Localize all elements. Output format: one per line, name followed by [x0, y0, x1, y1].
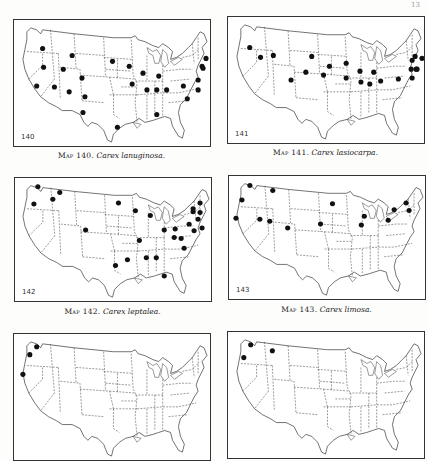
page-number: 13 [411, 1, 420, 9]
map-caption-143: Map 143. Carex limosa. [228, 305, 425, 314]
locality-dot [181, 83, 186, 88]
locality-dot [200, 66, 205, 71]
map-panel-142: 142 [14, 177, 212, 302]
locality-dot [247, 183, 252, 188]
locality-dot [362, 214, 367, 219]
us-map-143 [229, 176, 425, 299]
locality-dot [409, 67, 414, 72]
locality-dot [144, 87, 149, 92]
locality-dot [41, 65, 46, 70]
locality-dot [410, 75, 415, 80]
map-number-label: 142 [22, 288, 35, 296]
map-number-label: 143 [236, 286, 249, 294]
locality-dot [115, 125, 120, 130]
map-panel-143: 143 [228, 175, 426, 300]
locality-dot [241, 355, 246, 360]
locality-dot [419, 56, 424, 61]
locality-dot [359, 223, 364, 228]
locality-dot [330, 201, 335, 206]
locality-dot [367, 81, 372, 86]
locality-dot [191, 209, 196, 214]
locality-dot [61, 67, 66, 72]
locality-dot [271, 53, 276, 58]
caption-species: Carex limosa. [320, 305, 372, 314]
locality-dot [144, 255, 149, 260]
locality-dot [185, 96, 190, 101]
locality-dot [191, 228, 196, 233]
locality-dot [413, 54, 418, 59]
caption-prefix: Map 140. [58, 151, 94, 160]
locality-dot [162, 274, 167, 279]
locality-dot [67, 89, 72, 94]
locality-dot [52, 84, 57, 89]
locality-dot [154, 112, 159, 117]
locality-dot [270, 188, 275, 193]
locality-dot [309, 54, 314, 59]
locality-dot [127, 64, 132, 69]
us-map-141 [228, 17, 424, 143]
map-caption-141: Map 141. Carex lasiocarpa. [227, 148, 424, 157]
map-panel-141: 141 [227, 16, 425, 144]
locality-dot [392, 207, 397, 212]
locality-dot [288, 77, 293, 82]
map-caption-140: Map 140. Carex lanuginosa. [13, 151, 210, 160]
locality-dot [197, 210, 202, 215]
locality-dot [285, 225, 290, 230]
locality-dot [50, 197, 55, 202]
locality-dot [321, 73, 326, 78]
caption-species: Carex lanuginosa. [96, 151, 165, 160]
locality-dot [358, 79, 363, 84]
locality-dot [164, 87, 169, 92]
locality-dot [371, 70, 376, 75]
locality-dot [182, 246, 187, 251]
locality-dot [154, 87, 159, 92]
locality-dot [40, 46, 45, 51]
locality-dot [82, 94, 87, 99]
locality-dot [125, 257, 130, 262]
locality-dot [172, 235, 177, 240]
us-map-140 [14, 20, 210, 146]
locality-dot [404, 200, 409, 205]
locality-dot [110, 59, 115, 64]
locality-dot [173, 226, 178, 231]
locality-dot [35, 184, 40, 189]
locality-dot [197, 200, 202, 205]
locality-dot [414, 67, 419, 72]
locality-dot [154, 255, 159, 260]
locality-dot [83, 227, 88, 232]
locality-dot [248, 342, 253, 347]
locality-dot [34, 83, 39, 88]
locality-dot [187, 222, 192, 227]
locality-dot [34, 344, 39, 349]
locality-dot [257, 217, 262, 222]
locality-dot [156, 74, 161, 79]
us-map-144 [14, 334, 210, 460]
us-map-145 [228, 332, 424, 458]
caption-prefix: Map 141. [273, 148, 309, 157]
caption-species: Carex leptalea. [103, 307, 161, 316]
locality-dot [195, 217, 200, 222]
locality-dot [203, 56, 208, 61]
locality-dot [116, 200, 121, 205]
locality-dot [179, 236, 184, 241]
locality-dot [239, 198, 244, 203]
map-panel-144 [13, 333, 211, 461]
locality-dot [357, 69, 362, 74]
locality-dot [344, 75, 349, 80]
locality-dot [196, 77, 201, 82]
locality-dot [327, 64, 332, 69]
locality-dot [27, 352, 32, 357]
locality-dot [70, 53, 75, 58]
locality-dot [113, 263, 118, 268]
map-caption-142: Map 142. Carex leptalea. [14, 307, 211, 316]
locality-dot [318, 222, 323, 227]
locality-dot [396, 76, 401, 81]
locality-dot [378, 78, 383, 83]
locality-dot [267, 219, 272, 224]
locality-dot [233, 216, 238, 221]
us-map-142 [15, 178, 211, 301]
locality-dot [137, 238, 142, 243]
locality-dot [406, 208, 411, 213]
caption-prefix: Map 142. [64, 307, 100, 316]
locality-dot [386, 218, 391, 223]
